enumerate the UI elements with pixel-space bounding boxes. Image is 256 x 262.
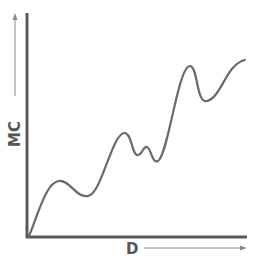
y-axis-arrow-icon: [13, 13, 18, 96]
x-axis-label: D: [126, 240, 138, 258]
mc-curve: [29, 60, 245, 236]
y-axis-label: MC: [6, 121, 24, 147]
chart: MC D: [0, 0, 256, 262]
x-axis-arrow-icon: [144, 246, 247, 251]
